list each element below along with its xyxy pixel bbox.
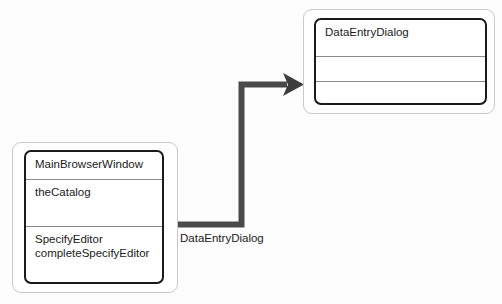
class-operations-compartment: SpecifyEditor completeSpecifyEditor (26, 226, 162, 282)
class-attributes-compartment: theCatalog (26, 179, 162, 226)
class-box-data-entry-dialog[interactable]: DataEntryDialog (314, 18, 487, 105)
connector-label-data-entry-dialog: DataEntryDialog (180, 231, 264, 245)
class-name-compartment: DataEntryDialog (316, 20, 485, 56)
class-name-compartment: MainBrowserWindow (26, 152, 162, 179)
connector-path (176, 85, 287, 225)
arrowhead-icon (283, 73, 304, 96)
class-attributes-compartment (316, 56, 485, 81)
diagram-canvas: DataEntryDialog MainBrowserWindow theCat… (0, 0, 502, 304)
class-operations-compartment (316, 81, 485, 103)
class-box-main-browser-window[interactable]: MainBrowserWindow theCatalog SpecifyEdit… (24, 150, 164, 284)
